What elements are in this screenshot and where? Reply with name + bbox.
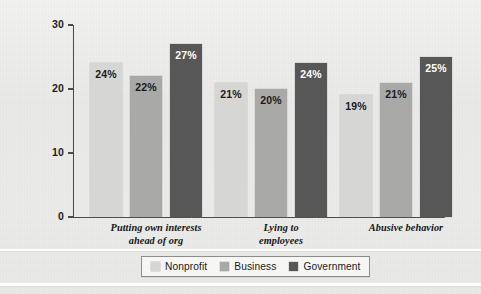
y-axis-tick-label: 20 bbox=[52, 82, 64, 94]
plot-area: 010203024%22%27%Putting own interestsahe… bbox=[10, 6, 470, 256]
bar-nonprofit-2[interactable]: 21% bbox=[215, 83, 247, 217]
legend-swatch-icon bbox=[289, 262, 298, 271]
y-axis-tick-label: 10 bbox=[52, 146, 64, 158]
bar-value-label: 20% bbox=[260, 94, 281, 106]
legend-swatch-icon bbox=[220, 262, 229, 271]
y-axis-tick bbox=[68, 88, 73, 89]
y-axis-tick bbox=[68, 216, 73, 217]
bar-government-3[interactable]: 25% bbox=[420, 57, 452, 217]
legend-label: Government bbox=[303, 261, 360, 272]
bar-business-2[interactable]: 20% bbox=[255, 89, 287, 217]
chart-legend: NonprofitBusinessGovernment bbox=[141, 256, 370, 277]
category-label-line: employees bbox=[196, 235, 366, 248]
bar-value-label: 25% bbox=[425, 62, 446, 74]
bar-value-label: 22% bbox=[135, 81, 156, 93]
category-label-line: Abusive behavior bbox=[321, 222, 481, 235]
legend-item-government[interactable]: Government bbox=[289, 261, 360, 272]
bar-value-label: 24% bbox=[300, 68, 321, 80]
y-axis-tick-label: 0 bbox=[58, 210, 64, 222]
bar-government-2[interactable]: 24% bbox=[295, 63, 327, 217]
bar-value-label: 19% bbox=[345, 100, 366, 112]
y-axis-tick-label: 30 bbox=[52, 18, 64, 30]
bar-value-label: 27% bbox=[175, 49, 196, 61]
legend-label: Nonprofit bbox=[165, 261, 207, 272]
legend-item-nonprofit[interactable]: Nonprofit bbox=[151, 261, 207, 272]
x-axis-line bbox=[73, 217, 445, 218]
legend-label: Business bbox=[234, 261, 276, 272]
y-axis-tick bbox=[68, 24, 73, 25]
legend-swatch-icon bbox=[151, 262, 160, 271]
x-axis-category-label: Abusive behavior bbox=[321, 222, 481, 235]
y-axis-tick bbox=[68, 152, 73, 153]
bar-value-label: 21% bbox=[385, 88, 406, 100]
bar-nonprofit-3[interactable]: 19% bbox=[340, 95, 372, 217]
bar-business-1[interactable]: 22% bbox=[130, 76, 162, 217]
bar-government-1[interactable]: 27% bbox=[170, 44, 202, 217]
bar-business-3[interactable]: 21% bbox=[380, 83, 412, 217]
y-axis-line bbox=[73, 25, 74, 218]
legend-item-business[interactable]: Business bbox=[220, 261, 276, 272]
bar-nonprofit-1[interactable]: 24% bbox=[90, 63, 122, 217]
bar-value-label: 24% bbox=[95, 68, 116, 80]
bar-chart: 010203024%22%27%Putting own interestsahe… bbox=[10, 6, 470, 256]
bar-value-label: 21% bbox=[220, 88, 241, 100]
scan-rule-4 bbox=[0, 286, 481, 287]
